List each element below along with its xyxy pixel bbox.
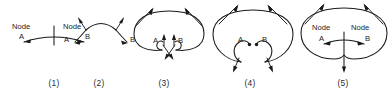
caption-row: (1) (2) (3) (4) (5) xyxy=(0,78,391,100)
caption-panel-4: (4) xyxy=(245,78,256,88)
caption-panel-3: (3) xyxy=(159,78,170,88)
panel-5-node-a-letter: A xyxy=(319,34,325,43)
upper-arc xyxy=(86,24,116,31)
panel-1-node-a-letter: A xyxy=(19,32,25,41)
arrowhead-b-out xyxy=(269,66,274,73)
arrowhead-a-out xyxy=(233,66,238,73)
outgoing-line-upper-right xyxy=(186,9,203,27)
outgoing-line-upper-right xyxy=(269,6,287,24)
node-b-dot xyxy=(255,43,258,46)
panel-4-stage-4: A B xyxy=(205,0,301,78)
arrowhead-a-up xyxy=(162,34,166,40)
panel-1-node-a-label: Node xyxy=(12,22,30,31)
panel-3-node-a-letter: A xyxy=(153,36,159,45)
arrowhead-upper-right xyxy=(119,17,124,24)
caption-panel-1: (1) xyxy=(49,78,60,88)
panel-2-node-a-letter: A xyxy=(64,35,70,44)
caption-panel-2: (2) xyxy=(94,78,105,88)
panel-5-node-b-letter: B xyxy=(365,34,370,43)
panel-4-node-b-letter: B xyxy=(262,35,267,44)
arrowhead-to-node-a xyxy=(74,41,81,45)
panel-4-node-a-letter: A xyxy=(238,35,244,44)
arrowhead-center-down xyxy=(342,67,346,74)
panel-5-stage-5: Node A Node B xyxy=(293,0,391,80)
panel-3-node-b-letter: B xyxy=(178,36,183,45)
left-branch xyxy=(75,30,86,42)
panel-5-node-a-label: Node xyxy=(312,23,330,32)
panel-3-stage-3: A B xyxy=(126,0,212,78)
caption-panel-5: (5) xyxy=(338,78,349,88)
panel-5-node-b-label: Node xyxy=(351,23,369,32)
arrowhead-upper-left xyxy=(78,17,83,24)
arrowhead-b-up xyxy=(172,34,176,40)
outgoing-line-upper-left xyxy=(135,9,152,27)
node-a-dot xyxy=(248,43,251,46)
figure-root: Node A Node B A B xyxy=(0,0,391,108)
